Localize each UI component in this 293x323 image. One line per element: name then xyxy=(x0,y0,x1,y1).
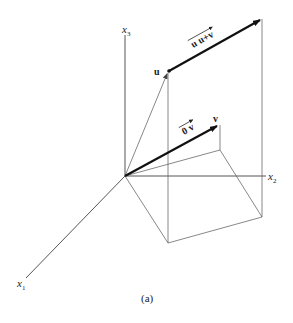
v-projection-line xyxy=(125,150,220,176)
origin-to-u-vector xyxy=(125,74,167,176)
zero-to-v-label: 0 v xyxy=(180,121,196,137)
point-u xyxy=(167,69,171,73)
origin-to-u-foot-line xyxy=(125,176,168,243)
v-foot-to-sum-foot-line xyxy=(220,150,262,217)
u-label: u xyxy=(154,66,160,77)
figure-caption: (a) xyxy=(141,292,154,305)
x2-label: x2 xyxy=(267,170,277,185)
v-label: v xyxy=(213,113,218,124)
zero-to-v-label-group: 0 v xyxy=(179,120,198,137)
u-foot-to-sum-foot-line xyxy=(168,217,262,243)
vector-u-to-u-plus-v xyxy=(169,20,260,71)
vector-addition-diagram: x3 x2 x1 u v u u+v 0 v (a) xyxy=(0,0,293,323)
x1-label: x1 xyxy=(16,277,26,292)
vector-v xyxy=(125,126,217,176)
x1-axis xyxy=(26,176,125,278)
x3-label: x3 xyxy=(121,23,131,38)
